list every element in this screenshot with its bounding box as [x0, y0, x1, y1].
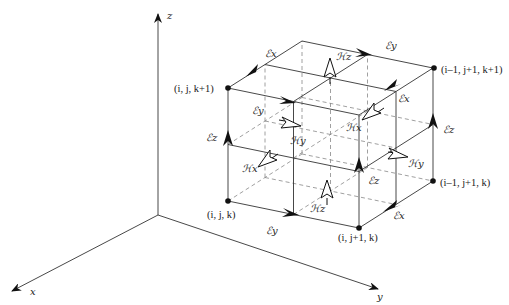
ex-arrow-right-top [384, 79, 401, 91]
label-ez-left: ℰz [206, 132, 218, 143]
ex-arrow-top-left [246, 64, 263, 77]
label-hz-bottom: ℋz [310, 203, 326, 214]
node-label-im1j1k: (i–1, j+1, k) [440, 177, 491, 189]
label-ex-bottom-right: ℰx [393, 210, 405, 221]
node-im1j1k1 [431, 65, 437, 71]
label-hx-right: ℋx [346, 122, 362, 133]
hz-arrow-bottom [321, 180, 333, 198]
node-ijk [225, 198, 231, 204]
ey-arrow-front-top [279, 96, 296, 104]
label-hz-top: ℋz [336, 51, 352, 62]
label-ex-top-left: ℰx [265, 48, 277, 59]
label-hy-right: ℋy [408, 158, 424, 169]
node-ij1k [356, 225, 362, 231]
hy-arrow-right [388, 148, 408, 159]
label-ey-bottom: ℰy [266, 225, 278, 236]
node-label-ijk1: (i, j, k+1) [174, 83, 214, 95]
hz-arrow-top [324, 58, 336, 77]
node-label-ijk: (i, j, k) [207, 209, 236, 221]
hy-arrow-front [281, 117, 301, 128]
label-hx-front: ℋx [242, 163, 258, 174]
node-label-im1j1k1: (i–1, j+1, k+1) [441, 64, 503, 76]
node-im1j1k [430, 178, 436, 184]
y-axis-label: y [376, 291, 383, 302]
node-ijk1 [225, 85, 231, 91]
label-ez-right: ℰz [443, 124, 455, 135]
h-field-arrows [258, 58, 408, 205]
node-label-ij1k: (i, j+1, k) [338, 232, 378, 244]
coordinate-axes [12, 14, 378, 291]
z-axis-label: z [166, 10, 173, 21]
label-ez-mid: ℰz [368, 175, 380, 186]
label-hy-front: ℋy [290, 135, 306, 146]
x-axis-label: x [30, 286, 36, 297]
label-ey-front-top: ℰy [252, 105, 264, 116]
grid-nodes [225, 65, 437, 231]
label-ey-top-back: ℰy [385, 40, 397, 51]
label-ex-right-top: ℰx [398, 93, 410, 104]
x-axis [12, 215, 158, 291]
yee-cell-diagram: z x y [0, 0, 509, 305]
